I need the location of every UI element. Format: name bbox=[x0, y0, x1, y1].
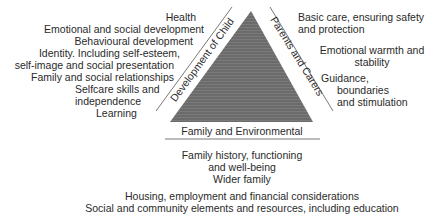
item-basic-care: Basic care, ensuring safety bbox=[298, 11, 424, 23]
item-selfcare: Selfcare skills and bbox=[75, 83, 160, 95]
parenting-capacity-warmth: Emotional warmth and stability bbox=[302, 44, 442, 68]
item-behavioural: Behavioural development bbox=[0, 35, 204, 47]
child-development-list-cont: Selfcare skills and independence Learnin… bbox=[75, 83, 160, 119]
item-self-image: self-image and social presentation bbox=[0, 59, 204, 71]
item-stability: stability bbox=[302, 56, 442, 68]
item-family-history: Family history, functioning bbox=[142, 149, 342, 161]
item-well-being: and well-being bbox=[142, 161, 342, 173]
item-emotional-social: Emotional and social development bbox=[0, 23, 204, 35]
item-learning: Learning bbox=[75, 107, 160, 119]
item-community: Social and community elements and resour… bbox=[40, 202, 444, 214]
child-development-list: Health Emotional and social development … bbox=[0, 11, 204, 83]
item-guidance: Guidance, bbox=[321, 72, 408, 84]
item-stimulation: and stimulation bbox=[321, 96, 408, 108]
item-boundaries: boundaries bbox=[321, 84, 408, 96]
side-label-family-and-environmental: Family and Environmental bbox=[181, 125, 302, 137]
item-identity: Identity. Including self-esteem, bbox=[0, 47, 204, 59]
item-protection: and protection bbox=[298, 23, 424, 35]
item-wider-family: Wider family bbox=[142, 173, 342, 185]
parenting-capacity-guidance: Guidance, boundaries and stimulation bbox=[321, 72, 408, 108]
item-emotional-warmth: Emotional warmth and bbox=[302, 44, 442, 56]
item-independence: independence bbox=[75, 95, 160, 107]
item-housing: Housing, employment and financial consid… bbox=[40, 190, 444, 202]
parenting-capacity-list: Basic care, ensuring safety and protecti… bbox=[298, 11, 424, 35]
family-environmental-list: Family history, functioning and well-bei… bbox=[142, 149, 342, 185]
item-health: Health bbox=[0, 11, 204, 23]
assessment-triangle-diagram: Development of Child Parents and Carers … bbox=[0, 0, 444, 216]
family-environmental-list-wide: Housing, employment and financial consid… bbox=[40, 190, 444, 214]
item-family-social: Family and social relationships bbox=[0, 71, 204, 83]
